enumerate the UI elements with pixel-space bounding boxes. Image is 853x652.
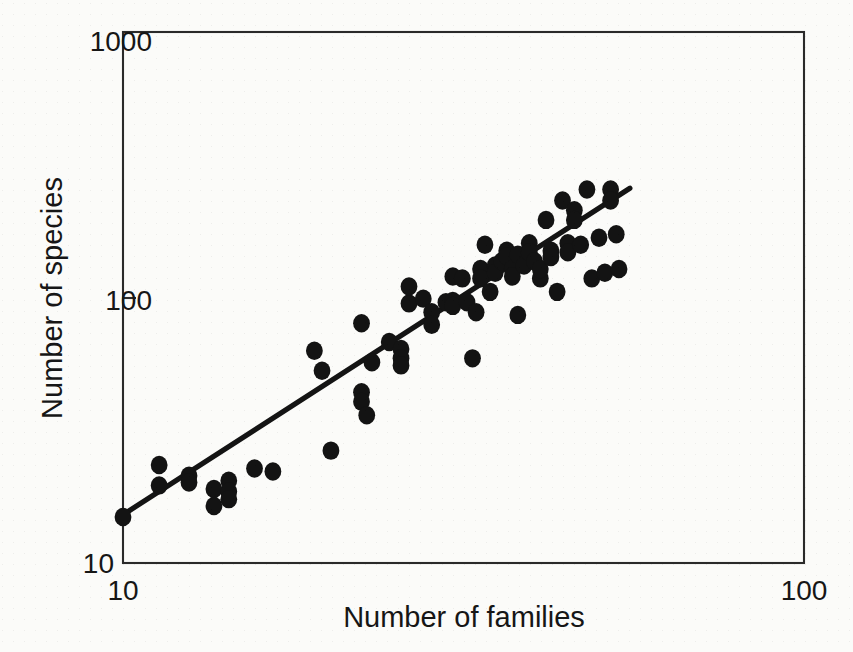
data-point	[549, 283, 566, 301]
chart-canvas: 1000 100 10 10 100 Number of families Nu…	[0, 0, 853, 652]
data-point	[364, 353, 381, 371]
data-point	[454, 269, 471, 287]
data-point	[608, 225, 625, 243]
scatter-plot-figure: 1000 100 10 10 100 Number of families Nu…	[0, 0, 853, 652]
data-point	[482, 283, 499, 301]
data-point	[401, 294, 418, 312]
data-point	[444, 297, 461, 315]
data-point	[151, 456, 168, 474]
data-point	[206, 480, 223, 498]
x-tick-label-10: 10	[107, 575, 138, 606]
data-point	[314, 362, 331, 380]
data-point	[464, 349, 481, 367]
y-tick-label-100: 100	[105, 285, 152, 316]
data-point	[115, 508, 132, 526]
data-point	[323, 441, 340, 459]
y-tick-label-1000: 1000	[90, 26, 152, 57]
data-point	[579, 180, 596, 198]
data-point	[572, 236, 589, 254]
y-axis-title: Number of species	[36, 177, 68, 419]
x-axis-title: Number of families	[343, 601, 585, 633]
data-point	[206, 497, 223, 515]
data-point	[306, 342, 323, 360]
data-point	[220, 490, 237, 508]
data-point	[566, 211, 583, 229]
data-point	[468, 303, 485, 321]
data-point	[509, 306, 526, 324]
data-point	[611, 260, 628, 278]
data-point	[358, 406, 375, 424]
data-point	[591, 228, 608, 246]
data-point	[246, 459, 263, 477]
data-point	[393, 356, 410, 374]
data-point	[596, 264, 613, 282]
x-tick-label-100: 100	[781, 575, 828, 606]
data-point	[353, 314, 370, 332]
data-point	[151, 476, 168, 494]
data-point	[543, 248, 560, 266]
data-point	[423, 315, 440, 333]
data-point	[477, 236, 494, 254]
data-point	[538, 211, 555, 229]
data-point	[602, 191, 619, 209]
data-point	[264, 462, 281, 480]
data-point	[401, 277, 418, 295]
data-point	[181, 473, 198, 491]
